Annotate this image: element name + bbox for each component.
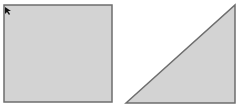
square-shape[interactable] <box>4 5 112 102</box>
diagram-canvas <box>0 0 240 109</box>
triangle-shape[interactable] <box>126 5 235 103</box>
